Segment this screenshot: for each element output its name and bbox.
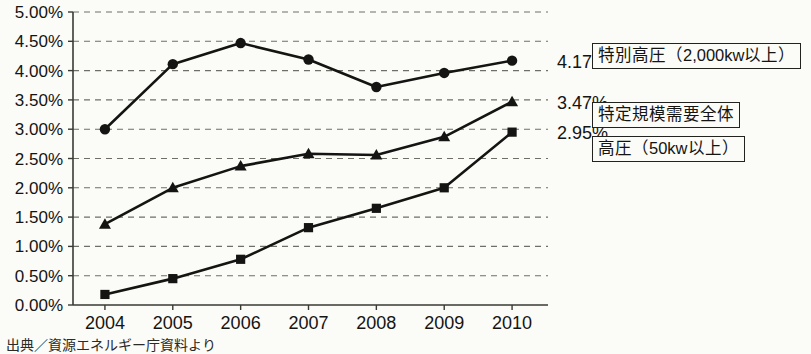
y-tick-label: 3.50% [15, 91, 63, 110]
y-tick-label: 2.50% [15, 150, 63, 169]
data-point-marker-circle [371, 82, 381, 92]
y-tick-label: 4.50% [15, 32, 63, 51]
data-point-marker-circle [235, 38, 245, 48]
y-tick-label: 1.00% [15, 237, 63, 256]
y-tick-label: 3.00% [15, 120, 63, 139]
data-point-marker-square [304, 223, 313, 232]
data-point-marker-square [507, 128, 516, 137]
legend-item-kouatsu: 高圧（50kw以上） [592, 136, 745, 162]
data-series-layer [99, 38, 518, 299]
data-point-marker-square [440, 183, 449, 192]
y-tick-label: 0.00% [15, 296, 63, 315]
x-axis-tick-labels: 2004200520062007200820092010 [85, 313, 532, 333]
y-axis-tick-labels: 0.00%0.50%1.00%1.50%2.00%2.50%3.00%3.50%… [15, 3, 73, 315]
gridlines [73, 12, 548, 276]
data-point-marker-circle [439, 68, 449, 78]
legend-item-zentai: 特定規模需要全体 [592, 102, 740, 128]
data-point-marker-circle [168, 59, 178, 69]
data-point-marker-circle [507, 55, 517, 65]
x-tick-label: 2004 [85, 313, 125, 333]
y-tick-label: 2.00% [15, 179, 63, 198]
x-tick-label: 2007 [288, 313, 328, 333]
data-point-marker-square [100, 290, 109, 299]
x-tick-label: 2008 [356, 313, 396, 333]
x-tick-label: 2006 [221, 313, 261, 333]
series-line-2 [105, 102, 512, 224]
x-tick-label: 2009 [424, 313, 464, 333]
source-note: 出典／資源エネルギー庁資料より [6, 334, 216, 354]
data-point-marker-square [236, 255, 245, 264]
legend-item-tokubetsu-kouatsu: 特別高圧（2,000kw以上） [592, 43, 801, 69]
y-tick-label: 4.00% [15, 62, 63, 81]
y-tick-label: 5.00% [15, 3, 63, 22]
x-tick-label: 2010 [492, 313, 532, 333]
data-point-marker-square [168, 274, 177, 283]
data-point-marker-triangle [99, 218, 111, 229]
y-tick-label: 1.50% [15, 208, 63, 227]
x-tick-label: 2005 [153, 313, 193, 333]
data-point-marker-square [372, 204, 381, 213]
data-point-marker-circle [303, 54, 313, 64]
data-point-marker-circle [100, 124, 110, 134]
y-tick-label: 0.50% [15, 267, 63, 286]
data-point-marker-triangle [506, 96, 518, 107]
